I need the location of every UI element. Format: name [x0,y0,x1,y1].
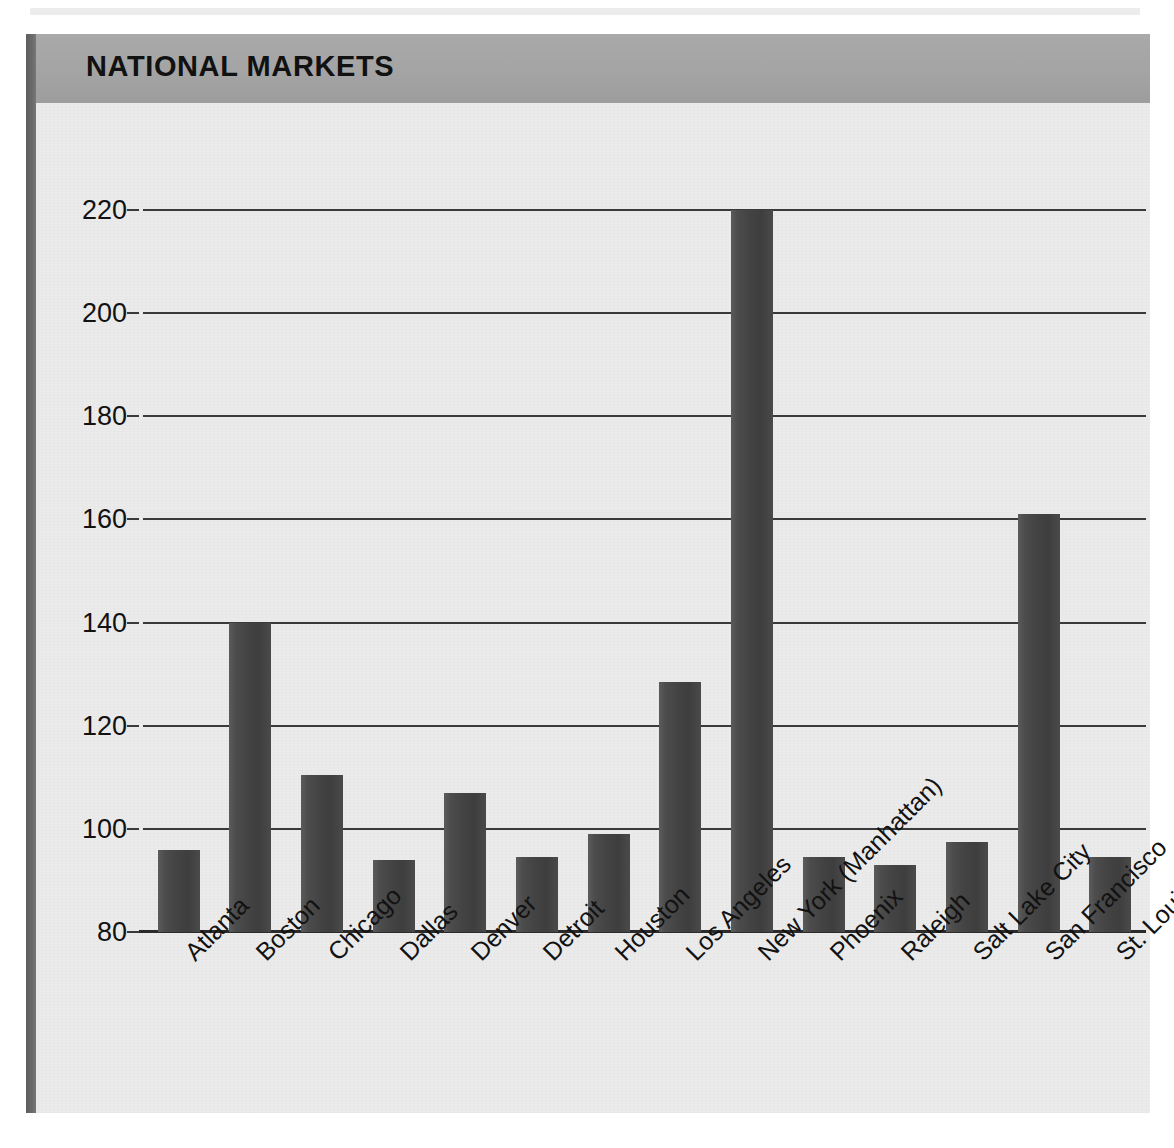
y-tick-label: 160 [82,504,127,535]
y-tick-label: 140 [82,607,127,638]
y-tick-mark [127,828,139,830]
x-tick-label: St. Louis [1110,946,1131,967]
y-tick-label: 80 [97,917,127,948]
y-tick-label: 100 [82,813,127,844]
x-tick-label: Atlanta [179,946,200,967]
x-axis-tick-labels: AtlantaBostonChicagoDallasDenverDetroitH… [143,210,1146,932]
y-tick-label: 220 [82,195,127,226]
x-tick-label: Detroit [537,946,558,967]
chart-title-bar: NATIONAL MARKETS [36,34,1150,103]
y-tick-mark [127,312,139,314]
x-tick-label: Boston [250,946,271,967]
left-accent-rail [26,34,36,1113]
chart-title: NATIONAL MARKETS [86,50,394,83]
chart-figure: NATIONAL MARKETS 22020018016014012010080… [26,34,1150,1113]
y-tick-mark [127,415,139,417]
x-tick-label: Dallas [394,946,415,967]
y-tick-mark [127,209,139,211]
y-tick-mark [127,725,139,727]
x-tick-label: Phoenix [824,946,845,967]
x-tick-label: Denver [465,946,486,967]
y-tick-mark [127,931,139,933]
x-tick-label: Salt Lake City [967,946,988,967]
y-tick-label: 200 [82,298,127,329]
y-tick-label: 180 [82,401,127,432]
x-tick-label: Los Angeles [680,946,701,967]
y-tick-mark [127,518,139,520]
x-tick-label: Raleigh [895,946,916,967]
plot-area: 22020018016014012010080 AtlantaBostonChi… [143,210,1146,932]
x-tick-label: New York (Manhattan) [752,946,773,967]
x-tick-label: Chicago [322,946,343,967]
x-tick-label: Houston [609,946,630,967]
y-tick-label: 120 [82,710,127,741]
x-tick-label: San Francisco [1039,946,1060,967]
y-tick-mark [127,622,139,624]
